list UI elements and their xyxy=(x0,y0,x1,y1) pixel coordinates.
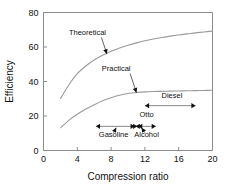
annotation-arrowhead-practical xyxy=(133,88,137,93)
annotation-arrowhead-theoretical xyxy=(103,49,107,54)
x-axis-title: Compression ratio xyxy=(87,171,169,182)
chart-figure: OttoGasolineAlcoholDiesel 04812162002040… xyxy=(0,0,228,186)
y-axis-title: Efficiency xyxy=(4,60,15,103)
y-tick-label: 80 xyxy=(28,8,38,18)
x-tick-label: 12 xyxy=(140,154,150,164)
range-arrow-left-gasoline xyxy=(96,124,100,129)
curve-series xyxy=(60,31,212,128)
y-tick-label: 40 xyxy=(28,77,38,87)
range-arrow-right-otto xyxy=(152,124,156,129)
curve-annotations: TheoreticalPractical xyxy=(69,28,137,93)
x-tick-label: 8 xyxy=(109,154,114,164)
range-arrow-right-alcohol xyxy=(133,124,137,129)
x-tick-label: 20 xyxy=(207,154,217,164)
x-tick-label: 0 xyxy=(41,154,46,164)
range-arrow-right-diesel xyxy=(191,103,195,108)
tick-labels: 048121620020406080 xyxy=(28,8,217,164)
curve-practical xyxy=(60,90,212,128)
annotation-label-practical: Practical xyxy=(102,64,131,73)
range-arrow-left-diesel xyxy=(145,103,149,108)
y-tick-label: 20 xyxy=(28,111,38,121)
range-label-alcohol: Alcohol xyxy=(134,130,159,139)
efficiency-vs-compression-ratio-chart: OttoGasolineAlcoholDiesel 04812162002040… xyxy=(0,0,228,186)
y-tick-label: 0 xyxy=(33,146,38,156)
x-tick-label: 4 xyxy=(75,154,80,164)
range-label-diesel: Diesel xyxy=(162,91,183,100)
range-label-otto: Otto xyxy=(139,110,153,119)
x-tick-label: 16 xyxy=(174,154,184,164)
annotation-label-theoretical: Theoretical xyxy=(69,28,106,37)
y-tick-label: 60 xyxy=(28,42,38,52)
